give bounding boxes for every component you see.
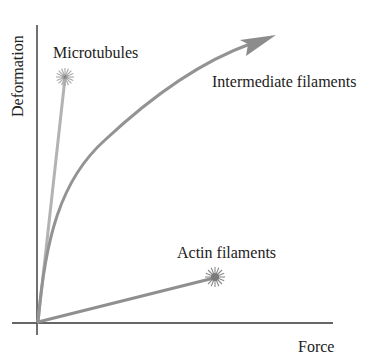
actin-filaments-line — [38, 278, 214, 322]
microtubules-burst-icon — [56, 68, 74, 86]
diagram-canvas: Microtubules Intermediate filaments Acti… — [0, 0, 372, 359]
microtubules-label: Microtubules — [53, 44, 138, 61]
y-axis-label: Deformation — [9, 35, 26, 117]
intermediate-filaments-label: Intermediate filaments — [212, 73, 356, 90]
deformation-force-diagram: Microtubules Intermediate filaments Acti… — [0, 0, 372, 359]
actin-filaments-label: Actin filaments — [177, 244, 276, 261]
actin-burst-icon — [205, 267, 225, 287]
x-axis-label: Force — [298, 338, 334, 355]
